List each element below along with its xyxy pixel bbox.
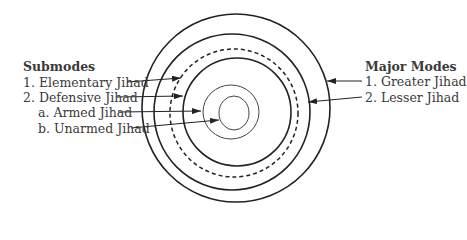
submodes-title: Submodes <box>23 60 95 74</box>
ring-unarmed-jihad <box>219 96 249 130</box>
ring-elementary-jihad <box>170 49 298 177</box>
major-mode-item: 2. Lesser Jihad <box>365 91 459 105</box>
arrow-lesser <box>308 97 362 102</box>
submode-item: b. Unarmed Jihad <box>38 122 150 136</box>
submode-item: 2. Defensive Jihad <box>23 91 138 105</box>
submode-item: a. Armed Jihad <box>38 106 132 120</box>
ring-armed-jihad <box>203 85 259 139</box>
major-modes-title: Major Modes <box>365 60 457 74</box>
ring-lesser-jihad <box>154 34 310 190</box>
submode-item: 1. Elementary Jihad <box>23 76 149 90</box>
major-mode-item: 1. Greater Jihad <box>365 75 467 89</box>
ring-defensive-jihad <box>183 58 291 166</box>
